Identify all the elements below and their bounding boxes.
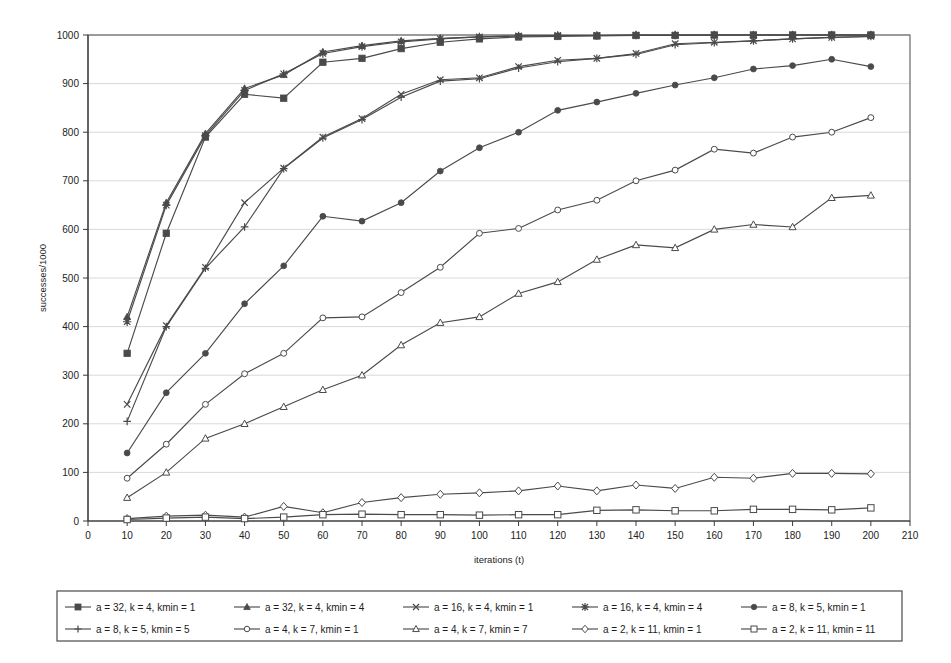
data-point-marker bbox=[202, 514, 208, 520]
data-point-marker bbox=[398, 290, 404, 296]
data-point-marker bbox=[241, 515, 247, 521]
data-point-marker bbox=[554, 31, 562, 39]
series-line bbox=[127, 195, 871, 497]
data-point-marker bbox=[750, 474, 757, 482]
legend-label: a = 4, k = 7, kmin = 7 bbox=[434, 624, 528, 635]
ytick-label-800: 800 bbox=[62, 127, 79, 138]
xtick-label-200: 200 bbox=[863, 530, 880, 541]
data-point-marker bbox=[581, 603, 589, 611]
data-point-marker bbox=[162, 323, 170, 331]
series-2 bbox=[124, 33, 874, 407]
data-point-marker bbox=[711, 75, 717, 81]
ytick-label-900: 900 bbox=[62, 78, 79, 89]
chart-figure: 0100200300400500600700800900100001020304… bbox=[0, 0, 951, 663]
data-point-marker bbox=[437, 490, 444, 498]
xtick-label-140: 140 bbox=[628, 530, 645, 541]
ytick-label-200: 200 bbox=[62, 418, 79, 429]
data-point-marker bbox=[281, 514, 287, 520]
data-point-marker bbox=[398, 511, 404, 517]
data-point-marker bbox=[750, 66, 756, 72]
data-point-marker bbox=[124, 450, 130, 456]
data-point-marker bbox=[476, 230, 482, 236]
data-point-marker bbox=[790, 134, 796, 140]
series-line bbox=[127, 473, 871, 518]
xtick-label-210: 210 bbox=[902, 530, 919, 541]
data-point-marker bbox=[750, 506, 756, 512]
data-point-marker bbox=[751, 626, 757, 632]
data-point-marker bbox=[555, 107, 561, 113]
data-point-marker bbox=[789, 469, 796, 477]
series-3 bbox=[123, 31, 875, 326]
xtick-label-190: 190 bbox=[823, 530, 840, 541]
data-point-marker bbox=[868, 64, 874, 70]
data-point-marker bbox=[476, 313, 483, 319]
data-point-marker bbox=[515, 64, 523, 72]
data-point-marker bbox=[123, 318, 131, 326]
data-point-marker bbox=[437, 511, 443, 517]
ytick-label-0: 0 bbox=[73, 516, 79, 527]
xtick-label-30: 30 bbox=[200, 530, 212, 541]
data-point-marker bbox=[398, 494, 405, 502]
series-9 bbox=[124, 505, 874, 523]
xtick-label-130: 130 bbox=[589, 530, 606, 541]
data-point-marker bbox=[358, 43, 366, 51]
series-line bbox=[127, 508, 871, 520]
xtick-label-120: 120 bbox=[549, 530, 566, 541]
xtick-label-180: 180 bbox=[784, 530, 801, 541]
data-point-marker bbox=[554, 278, 561, 284]
data-point-marker bbox=[359, 314, 365, 320]
data-point-marker bbox=[163, 441, 169, 447]
ytick-label-300: 300 bbox=[62, 370, 79, 381]
data-point-marker bbox=[632, 241, 639, 247]
data-point-marker bbox=[163, 230, 169, 236]
data-point-marker bbox=[124, 401, 130, 407]
data-point-marker bbox=[710, 31, 718, 39]
legend-label: a = 8, k = 5, kmin = 1 bbox=[772, 602, 866, 613]
data-point-marker bbox=[515, 487, 522, 495]
legend-label: a = 16, k = 4, kmin = 4 bbox=[603, 602, 703, 613]
data-point-marker bbox=[868, 505, 874, 511]
xtick-label-0: 0 bbox=[85, 530, 91, 541]
xtick-label-60: 60 bbox=[317, 530, 329, 541]
data-point-marker bbox=[633, 507, 639, 513]
series-7 bbox=[124, 192, 875, 501]
data-point-marker bbox=[594, 507, 600, 513]
data-point-marker bbox=[868, 115, 874, 121]
ytick-label-400: 400 bbox=[62, 321, 79, 332]
xtick-label-100: 100 bbox=[471, 530, 488, 541]
data-point-marker bbox=[828, 469, 835, 477]
series-4 bbox=[124, 56, 874, 456]
data-point-marker bbox=[202, 350, 208, 356]
xtick-label-110: 110 bbox=[511, 530, 527, 541]
data-point-marker bbox=[436, 35, 444, 43]
series-line bbox=[127, 59, 871, 453]
data-point-marker bbox=[240, 86, 248, 94]
data-point-marker bbox=[671, 31, 679, 39]
data-point-marker bbox=[554, 482, 561, 490]
data-point-marker bbox=[398, 200, 404, 206]
series-1 bbox=[124, 31, 875, 319]
xtick-label-90: 90 bbox=[435, 530, 447, 541]
data-point-marker bbox=[202, 401, 208, 407]
legend-label: a = 32, k = 4, kmin = 1 bbox=[96, 602, 196, 613]
data-point-marker bbox=[829, 56, 835, 62]
data-point-marker bbox=[672, 82, 678, 88]
data-point-marker bbox=[398, 45, 404, 51]
data-point-marker bbox=[672, 484, 679, 492]
data-point-marker bbox=[829, 507, 835, 513]
data-point-marker bbox=[514, 32, 522, 40]
x-axis-title: iterations (t) bbox=[474, 554, 524, 565]
data-point-marker bbox=[867, 192, 874, 198]
data-point-marker bbox=[201, 131, 209, 139]
data-point-marker bbox=[437, 264, 443, 270]
data-point-marker bbox=[475, 33, 483, 41]
data-point-marker bbox=[359, 55, 365, 61]
data-point-marker bbox=[750, 221, 757, 227]
xtick-label-20: 20 bbox=[161, 530, 173, 541]
data-point-marker bbox=[829, 129, 835, 135]
xtick-label-80: 80 bbox=[396, 530, 408, 541]
data-point-marker bbox=[750, 150, 756, 156]
data-point-marker bbox=[515, 511, 521, 517]
data-point-marker bbox=[632, 481, 639, 489]
data-point-marker bbox=[398, 341, 405, 347]
